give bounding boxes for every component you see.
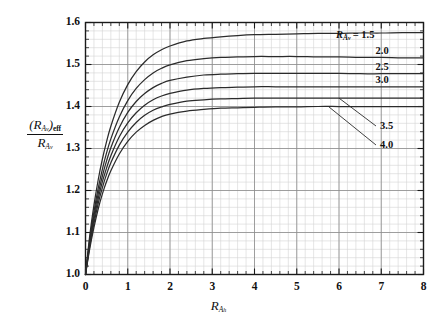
curve-label-2-0: 2.0 <box>376 45 389 56</box>
x-tick-label: 1 <box>113 280 143 292</box>
x-axis-title: RAh <box>0 298 437 314</box>
x-tick-label: 6 <box>324 280 354 292</box>
y-tick-label: 1.4 <box>44 99 80 111</box>
y-tick-label: 1.2 <box>44 183 80 195</box>
leader-line-4-0 <box>328 107 376 146</box>
y-axis-title: (RAv)eff RAv <box>14 118 76 152</box>
y-tick-label: 1.1 <box>44 225 80 237</box>
legend-sub-v: v <box>348 35 351 41</box>
x-tick-label: 4 <box>240 280 270 292</box>
x-tick-label: 7 <box>366 280 396 292</box>
curve-label-3-0: 3.0 <box>376 74 389 85</box>
curve-label-2-5: 2.5 <box>376 61 389 72</box>
x-tick-label: 3 <box>197 280 227 292</box>
curve-label-4-0: 4.0 <box>380 139 393 150</box>
leader-lines <box>328 98 376 145</box>
y-title-eff: eff <box>53 124 61 133</box>
curve-label-3-5: 3.5 <box>380 120 393 131</box>
y-title-den-sub-v: v <box>50 144 53 150</box>
x-tick-label: 8 <box>409 280 437 292</box>
legend-header: RAv= 1.5 <box>336 29 374 42</box>
x-tick-label: 0 <box>71 280 101 292</box>
leader-line-3-5 <box>339 98 376 126</box>
x-title-R: R <box>211 298 219 313</box>
y-tick-label: 1.6 <box>44 15 80 27</box>
y-tick-label: 1.0 <box>44 267 80 279</box>
chart-figure: 1.01.11.21.31.41.51.6 012345678 2.02.53.… <box>0 0 437 327</box>
x-tick-label: 2 <box>155 280 185 292</box>
x-tick-label: 5 <box>282 280 312 292</box>
x-title-sub-h: h <box>223 307 226 313</box>
legend-R: R <box>336 29 343 40</box>
y-tick-label: 1.5 <box>44 57 80 69</box>
legend-equals-value: = 1.5 <box>353 29 375 40</box>
